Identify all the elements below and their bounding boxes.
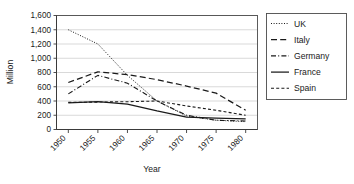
x-axis-tick-labels: 1950195519601965197019751980: [48, 133, 245, 153]
x-tick-label: 1975: [196, 133, 216, 153]
x-tick-label: 1950: [48, 133, 68, 153]
gridlines: [57, 16, 258, 116]
chart-svg: 02004006008001,0001,2001,4001,600 195019…: [0, 0, 354, 184]
y-tick-label: 1,400: [31, 26, 52, 35]
line-chart-figure: 02004006008001,0001,2001,4001,600 195019…: [0, 0, 354, 184]
y-tick-label: 1,000: [31, 54, 52, 63]
y-tick-label: 600: [37, 83, 51, 92]
data-series: [68, 30, 245, 122]
x-tick-label: 1980: [226, 133, 246, 153]
legend-label-germany: Germany: [294, 51, 330, 61]
x-axis-title: Year: [143, 164, 161, 174]
x-axis-tickmarks: [68, 130, 245, 134]
y-tick-label: 400: [37, 97, 51, 106]
y-axis-title: Million: [5, 60, 15, 85]
y-tick-label: 200: [37, 111, 51, 120]
y-tick-label: 1,600: [31, 11, 52, 20]
legend-label-france: France: [294, 67, 321, 77]
legend-label-italy: Italy: [294, 35, 310, 45]
x-tick-label: 1970: [167, 133, 187, 153]
legend-label-uk: UK: [294, 19, 306, 29]
y-tick-label: 0: [46, 125, 51, 134]
series-line-spain: [68, 101, 245, 115]
series-line-uk: [68, 30, 245, 122]
x-tick-label: 1960: [108, 133, 128, 153]
series-line-germany: [68, 75, 245, 121]
legend-label-spain: Spain: [294, 83, 316, 93]
x-tick-label: 1965: [137, 133, 157, 153]
y-axis-tick-labels: 02004006008001,0001,2001,4001,600: [31, 11, 52, 134]
x-tick-label: 1955: [78, 133, 98, 153]
y-tick-label: 800: [37, 68, 51, 77]
y-tick-label: 1,200: [31, 40, 52, 49]
